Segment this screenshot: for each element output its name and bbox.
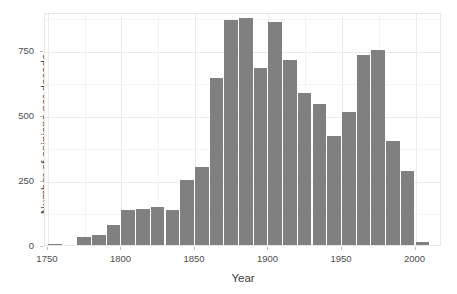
histogram-bar: [401, 171, 415, 245]
histogram-bar: [92, 235, 106, 245]
gridline-x-major: [48, 14, 49, 245]
x-tick-mark: [120, 247, 121, 250]
y-tick-mark: [40, 246, 43, 247]
histogram-bar: [166, 210, 180, 245]
histogram-bar: [224, 20, 238, 245]
y-tick-mark: [40, 116, 43, 117]
x-tick-mark: [267, 247, 268, 250]
histogram-bar: [283, 60, 297, 245]
histogram-bar: [371, 50, 385, 245]
x-tick-mark: [341, 247, 342, 250]
histogram-bar: [416, 242, 430, 245]
histogram-bar: [327, 136, 341, 245]
histogram-bar: [121, 210, 135, 245]
y-tick-label: 500: [0, 111, 34, 121]
histogram-bar: [342, 112, 356, 245]
histogram-bar: [180, 180, 194, 245]
y-tick-mark: [40, 181, 43, 182]
x-tick-label: 1850: [171, 253, 217, 264]
histogram-bar: [386, 141, 400, 245]
histogram-bar: [357, 55, 371, 245]
histogram-bar: [136, 209, 150, 245]
histogram-bar: [195, 167, 209, 245]
plot-panel: [44, 13, 441, 246]
histogram-bar: [151, 207, 165, 245]
gridline-x-major: [416, 14, 417, 245]
histogram-bar: [239, 18, 253, 245]
x-tick-label: 1750: [24, 253, 70, 264]
histogram-bar: [313, 104, 327, 245]
histogram-bar: [210, 78, 224, 245]
chart-figure: … Number of opinions per decade 02505007…: [0, 0, 457, 294]
x-tick-mark: [194, 247, 195, 250]
y-tick-mark: [40, 51, 43, 52]
histogram-bar: [107, 225, 121, 245]
x-axis-title: Year: [44, 272, 442, 284]
x-tick-label: 1950: [318, 253, 364, 264]
x-tick-label: 2000: [392, 253, 438, 264]
histogram-bar: [298, 93, 312, 245]
y-tick-label: 0: [0, 241, 34, 251]
histogram-bar: [77, 237, 91, 245]
histogram-bar: [268, 22, 282, 245]
x-tick-label: 1900: [244, 253, 290, 264]
x-tick-label: 1800: [97, 253, 143, 264]
x-tick-mark: [415, 247, 416, 250]
gridline-x-minor: [85, 14, 86, 245]
y-tick-label: 750: [0, 46, 34, 56]
histogram-bar: [48, 244, 62, 245]
y-tick-label: 250: [0, 176, 34, 186]
clipped-title-text: …: [44, 0, 53, 6]
x-tick-mark: [47, 247, 48, 250]
histogram-bar: [254, 68, 268, 245]
